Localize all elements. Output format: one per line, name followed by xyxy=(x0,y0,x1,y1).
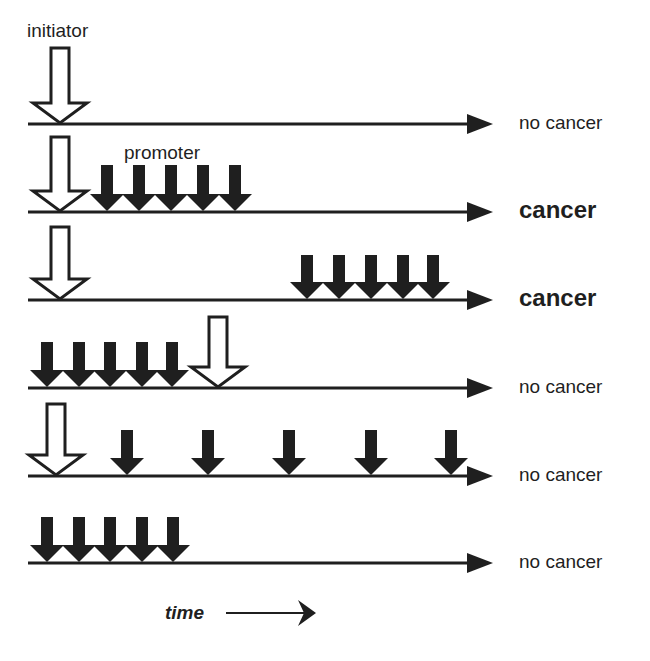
promoter-arrow-icon xyxy=(90,165,124,211)
promoter-arrow-icon xyxy=(354,430,388,475)
outcome-label: no cancer xyxy=(519,464,602,486)
initiator-arrow-icon xyxy=(33,137,87,211)
initiator-arrow-icon xyxy=(29,404,83,475)
timeline-row-6 xyxy=(28,517,493,573)
promoter-arrow-icon xyxy=(62,342,96,387)
initiator-label: initiator xyxy=(27,20,88,42)
initiator-arrow-icon xyxy=(33,227,87,299)
timeline-arrowhead-icon xyxy=(467,466,493,486)
timeline-row-3 xyxy=(28,227,493,310)
promoter-arrow-icon xyxy=(416,255,450,299)
promoter-arrow-icon xyxy=(110,430,144,475)
promoter-arrow-icon xyxy=(272,430,306,475)
time-label: time xyxy=(165,602,204,624)
timeline-arrowhead-icon xyxy=(467,378,493,398)
promoter-arrow-icon xyxy=(155,342,189,387)
timeline-row-5 xyxy=(28,404,493,486)
promoter-arrow-icon xyxy=(125,342,159,387)
outcome-label: no cancer xyxy=(519,551,602,573)
time-arrow-icon xyxy=(220,596,320,630)
timeline-arrowhead-icon xyxy=(467,114,493,134)
promoter-arrow-icon xyxy=(186,165,220,211)
timeline-row-4 xyxy=(28,317,493,398)
promoter-arrow-icon xyxy=(125,517,159,562)
promoter-arrow-icon xyxy=(93,517,127,562)
outcome-label: no cancer xyxy=(519,112,602,134)
timeline-arrowhead-icon xyxy=(467,553,493,573)
promoter-arrow-icon xyxy=(434,430,468,475)
timeline-arrowhead-icon xyxy=(467,202,493,222)
promoter-arrow-icon xyxy=(290,255,324,299)
promoter-arrow-icon xyxy=(218,165,252,211)
initiator-arrow-icon xyxy=(191,317,245,387)
initiator-arrow-icon xyxy=(33,48,87,123)
outcome-label: cancer xyxy=(519,196,596,224)
outcome-label: cancer xyxy=(519,284,596,312)
timeline-row-2 xyxy=(28,137,493,222)
outcome-label: no cancer xyxy=(519,376,602,398)
promoter-arrow-icon xyxy=(30,517,64,562)
promoter-arrow-icon xyxy=(354,255,388,299)
promoter-arrow-icon xyxy=(30,342,64,387)
promoter-arrow-icon xyxy=(386,255,420,299)
timeline-arrowhead-icon xyxy=(467,290,493,310)
promoter-arrow-icon xyxy=(62,517,96,562)
timeline-row-1 xyxy=(28,48,493,134)
promoter-arrow-icon xyxy=(322,255,356,299)
promoter-arrow-icon xyxy=(191,430,225,475)
promoter-label: promoter xyxy=(124,142,200,164)
promoter-arrow-icon xyxy=(154,165,188,211)
promoter-arrow-icon xyxy=(122,165,156,211)
promoter-arrow-icon xyxy=(156,517,190,562)
promoter-arrow-icon xyxy=(93,342,127,387)
